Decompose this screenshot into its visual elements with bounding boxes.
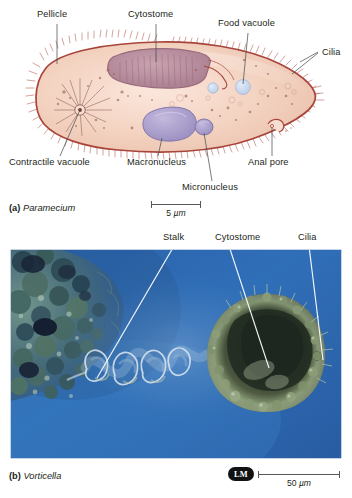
scalebar-value: 5 <box>166 208 171 218</box>
label-contractile-vacuole: Contractile vacuole <box>9 157 90 167</box>
panel-b-tag: (b) <box>9 471 21 481</box>
label-macronucleus: Macronucleus <box>127 157 186 167</box>
label-food-vacuole: Food vacuole <box>218 18 275 28</box>
micrograph-type-badge: LM <box>228 467 254 481</box>
scalebar-label: 50 µm <box>258 478 340 488</box>
scalebar-cap-right <box>200 201 201 208</box>
label-pellicle: Pellicle <box>37 9 67 19</box>
scalebar-cap-left <box>151 201 152 208</box>
figure-protist-ciliates: Pellicle Cytostome Food vacuole Cilia Co… <box>0 0 352 498</box>
label-anal-pore: Anal pore <box>248 157 289 167</box>
caption-panel-a: (a) Paramecium <box>9 203 75 214</box>
panel-a-organism: Paramecium <box>23 203 75 213</box>
label-cilia: Cilia <box>322 47 341 57</box>
panel-b-organism: Vorticella <box>23 471 61 481</box>
scalebar-line <box>151 204 201 205</box>
label-micronucleus: Micronucleus <box>182 182 238 192</box>
scalebar-line <box>258 474 340 475</box>
vorticella-micrograph <box>11 250 341 458</box>
scalebar-cap-left <box>258 471 259 478</box>
scalebar-label: 5 µm <box>151 208 201 218</box>
leader-cilia-lower <box>292 53 318 74</box>
scalebar-cap-right <box>339 471 340 478</box>
panel-a-tag: (a) <box>9 203 20 213</box>
scalebar-unit: µm <box>299 478 311 488</box>
caption-panel-b: (b) Vorticella <box>9 471 61 482</box>
food-vacuole <box>208 83 218 93</box>
scalebar-value: 50 <box>287 478 297 488</box>
label-cilia-vorticella: Cilia <box>298 232 317 242</box>
label-cytostome: Cytostome <box>128 9 173 19</box>
paramecium-diagram <box>0 0 352 228</box>
label-stalk: Stalk <box>163 232 184 242</box>
scalebar-unit: µm <box>174 208 186 218</box>
label-cytostome-vorticella: Cytostome <box>215 232 260 242</box>
